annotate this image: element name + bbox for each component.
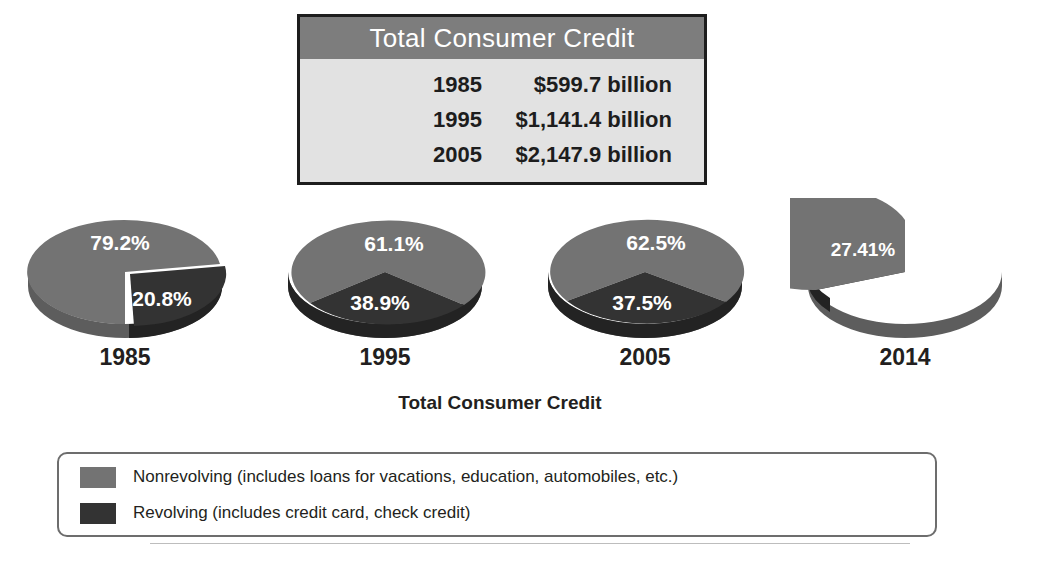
pie-label-nonrevolving: 79.2% bbox=[90, 231, 150, 254]
table-row: 2005 $2,147.9 billion bbox=[300, 137, 704, 172]
table-cell-year: 1995 bbox=[300, 107, 482, 133]
pie-graphic-1995: 61.1% 38.9% bbox=[270, 198, 500, 346]
table-cell-year: 2005 bbox=[300, 142, 482, 168]
chart-subtitle: Total Consumer Credit bbox=[0, 392, 1000, 414]
pie-label-nonrevolving: 72.59% bbox=[882, 280, 954, 303]
table-cell-amount: $1,141.4 billion bbox=[482, 107, 704, 133]
table-cell-amount: $2,147.9 billion bbox=[482, 142, 704, 168]
pie-year-label-2005: 2005 bbox=[530, 344, 760, 371]
pie-label-nonrevolving: 62.5% bbox=[626, 231, 686, 254]
table-row: 1985 $599.7 billion bbox=[300, 67, 704, 102]
summary-table-body: 1985 $599.7 billion 1995 $1,141.4 billio… bbox=[300, 59, 704, 172]
legend: Nonrevolving (includes loans for vacatio… bbox=[57, 452, 937, 537]
pie-graphic-2014: 27.41% 72.59% bbox=[790, 198, 1020, 346]
legend-swatch-revolving bbox=[80, 503, 116, 524]
pie-chart-1995: 61.1% 38.9% 1995 bbox=[270, 198, 500, 388]
pie-year-label-2014: 2014 bbox=[790, 344, 1020, 371]
summary-table-title: Total Consumer Credit bbox=[300, 17, 704, 59]
pie-chart-row: 79.2% 20.8% 1985 61.1% 38.9% 1995 bbox=[0, 198, 1050, 388]
pie-label-revolving: 38.9% bbox=[350, 291, 410, 314]
pie-year-label-1985: 1985 bbox=[10, 344, 240, 371]
table-row: 1995 $1,141.4 billion bbox=[300, 102, 704, 137]
pie-graphic-1985: 79.2% 20.8% bbox=[10, 198, 240, 346]
pie-chart-1985: 79.2% 20.8% 1985 bbox=[10, 198, 240, 388]
pie-graphic-2005: 62.5% 37.5% bbox=[530, 198, 760, 346]
legend-item-revolving[interactable]: Revolving (includes credit card, check c… bbox=[59, 495, 935, 531]
pie-label-revolving: 20.8% bbox=[132, 287, 192, 310]
pie-label-nonrevolving: 61.1% bbox=[364, 232, 424, 255]
legend-label-revolving: Revolving (includes credit card, check c… bbox=[133, 503, 470, 523]
table-cell-amount: $599.7 billion bbox=[482, 72, 704, 98]
legend-item-nonrevolving[interactable]: Nonrevolving (includes loans for vacatio… bbox=[59, 459, 935, 495]
pie-chart-2014: 27.41% 72.59% 2014 bbox=[790, 198, 1020, 388]
table-cell-year: 1985 bbox=[300, 72, 482, 98]
pie-year-label-1995: 1995 bbox=[270, 344, 500, 371]
pie-label-revolving: 27.41% bbox=[831, 239, 896, 260]
pie-label-revolving: 37.5% bbox=[612, 291, 672, 314]
legend-label-nonrevolving: Nonrevolving (includes loans for vacatio… bbox=[133, 467, 678, 487]
legend-swatch-nonrevolving bbox=[80, 467, 116, 488]
pie-chart-2005: 62.5% 37.5% 2005 bbox=[530, 198, 760, 388]
summary-table: Total Consumer Credit 1985 $599.7 billio… bbox=[297, 14, 707, 185]
bottom-divider bbox=[150, 543, 910, 544]
